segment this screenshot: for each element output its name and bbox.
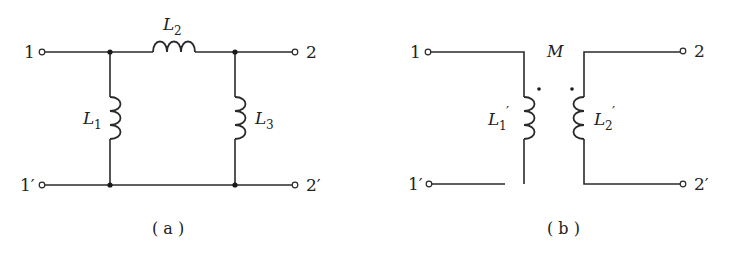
junction-node <box>232 182 237 187</box>
polarity-dot-secondary <box>570 87 574 91</box>
svg-text:3: 3 <box>266 118 274 132</box>
label-l2-prime: L 2 ′ <box>593 104 615 133</box>
circuit-figure: 1 1′ 2 2′ L 2 L 1 L 3 ( a ) <box>0 0 733 254</box>
svg-text:1: 1 <box>94 118 102 132</box>
svg-text:1: 1 <box>499 119 507 133</box>
caption-a: ( a ) <box>152 219 184 238</box>
svg-text:L: L <box>254 108 266 128</box>
inductor-l3-coil <box>235 97 246 139</box>
svg-text:2: 2 <box>605 119 613 133</box>
terminal-2-prime <box>680 181 686 187</box>
terminal-label-2-prime: 2′ <box>306 175 321 195</box>
junction-node <box>107 49 112 54</box>
terminal-1-prime <box>39 182 45 188</box>
svg-text:′: ′ <box>506 104 509 120</box>
inductor-l2-coil <box>153 42 195 53</box>
terminal-1 <box>425 49 431 55</box>
terminal-label-2: 2 <box>306 42 317 62</box>
label-l3: L 3 <box>254 108 274 132</box>
svg-text:′: ′ <box>612 104 615 120</box>
svg-text:L: L <box>82 108 94 128</box>
wire-primary-top <box>431 52 524 97</box>
mutual-inductance-label: M <box>546 42 564 61</box>
terminal-label-1-prime: 1′ <box>408 174 423 194</box>
terminal-2 <box>680 48 686 54</box>
svg-text:L: L <box>487 109 499 129</box>
terminal-label-2-prime: 2′ <box>694 174 709 194</box>
label-l1-prime: L 1 ′ <box>487 104 509 133</box>
terminal-label-1: 1 <box>410 42 421 62</box>
wire-secondary-top <box>584 52 680 97</box>
label-l1: L 1 <box>82 108 102 132</box>
wire-secondary-bottom <box>584 139 680 184</box>
junction-node <box>232 49 237 54</box>
svg-text:L: L <box>593 109 605 129</box>
terminal-label-1-prime: 1′ <box>20 175 35 195</box>
diagram-b: 1 1′ 2 2′ M L 1 ′ L 2 ′ ( b ) <box>408 41 709 238</box>
junction-node <box>107 182 112 187</box>
inductor-l2-prime-coil <box>574 97 585 139</box>
label-l2: L 2 <box>162 14 182 38</box>
polarity-dot-primary <box>537 87 541 91</box>
inductor-l1-coil <box>110 97 121 139</box>
terminal-2 <box>292 49 298 55</box>
terminal-label-2: 2 <box>694 41 705 61</box>
svg-text:L: L <box>162 14 174 34</box>
terminal-1 <box>39 49 45 55</box>
terminal-label-1: 1 <box>24 42 35 62</box>
caption-b: ( b ) <box>547 219 580 238</box>
inductor-l1-prime-coil <box>524 97 535 139</box>
terminal-2-prime <box>292 182 298 188</box>
diagram-a: 1 1′ 2 2′ L 2 L 1 L 3 ( a ) <box>20 14 321 238</box>
svg-text:2: 2 <box>174 24 182 38</box>
terminal-1-prime <box>426 181 432 187</box>
